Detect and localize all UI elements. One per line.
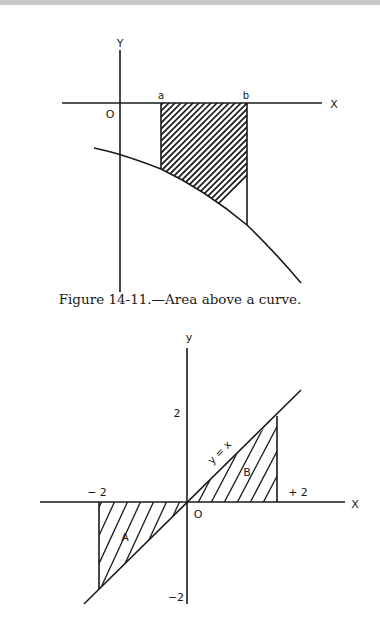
figure-2: y X O − 2 + 2 2 −2 y = x B A <box>34 331 359 620</box>
region-a-label: A <box>121 531 129 544</box>
x-axis-label: X <box>351 498 359 511</box>
line-y-equals-x <box>84 390 301 604</box>
y-pos-2-label: 2 <box>174 407 181 420</box>
b-label: b <box>243 90 249 101</box>
figures-canvas: Y X O a b Figure 14-11.—Area above a cur… <box>0 0 380 631</box>
figure-1: Y X O a b Figure 14-11.—Area above a cur… <box>59 37 339 322</box>
region-b-label: B <box>243 466 251 479</box>
origin-label: O <box>194 508 203 521</box>
origin-label: O <box>106 108 115 121</box>
y-axis-label: y <box>186 331 193 344</box>
y-axis-label: Y <box>116 37 124 50</box>
x-pos-2-label: + 2 <box>288 486 308 499</box>
y-neg-2-label: −2 <box>168 591 184 604</box>
curve <box>94 148 301 283</box>
figure-1-caption: Figure 14-11.—Area above a curve. <box>59 291 302 307</box>
x-axis-label: X <box>330 98 338 111</box>
a-label: a <box>158 90 164 101</box>
x-neg-2-label: − 2 <box>87 486 107 499</box>
hatched-region <box>100 100 322 322</box>
